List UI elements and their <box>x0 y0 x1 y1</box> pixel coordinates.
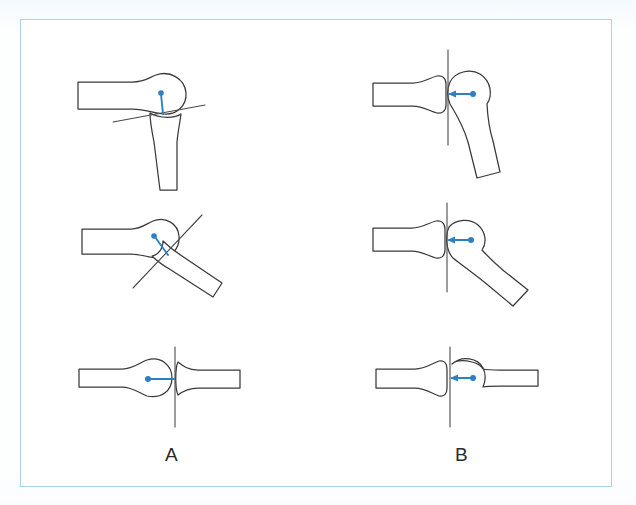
panel-b-row1 <box>373 50 500 178</box>
bone-distal-b2 <box>447 220 528 306</box>
column-label-a: A <box>165 444 178 466</box>
panel-b-row3 <box>376 347 538 427</box>
bone-distal-b1 <box>448 71 500 178</box>
figure-root: .bone { fill: #ffffff; stroke: #3a3a3a; … <box>0 0 636 505</box>
joint-indicator-dot-b2 <box>468 237 474 243</box>
joint-indicator-dot-a3 <box>145 376 151 382</box>
panel-b-row2 <box>373 203 528 306</box>
bone-proximal-a3 <box>79 359 172 397</box>
anatomical-diagram: .bone { fill: #ffffff; stroke: #3a3a3a; … <box>0 0 636 505</box>
joint-indicator-dot-a2 <box>151 233 157 239</box>
joint-indicator-dot-b3 <box>470 375 476 381</box>
bone-distal-a1 <box>150 113 181 190</box>
bone-proximal-b2 <box>373 221 445 258</box>
panel-a-row2 <box>82 215 222 297</box>
bone-proximal-a1 <box>78 74 186 114</box>
joint-indicator-dot-a1 <box>158 90 164 96</box>
panel-a-row3 <box>79 347 240 427</box>
bone-distal-a2 <box>152 241 222 297</box>
panel-a-row1 <box>78 74 205 190</box>
bone-distal-b3 <box>452 359 538 387</box>
column-label-b: B <box>455 444 468 466</box>
joint-indicator-arrowhead-b3 <box>450 375 458 382</box>
bone-distal-a3 <box>176 362 240 395</box>
bone-proximal-b1 <box>373 76 446 113</box>
bone-proximal-b3 <box>376 361 447 396</box>
joint-indicator-dot-b1 <box>470 91 476 97</box>
